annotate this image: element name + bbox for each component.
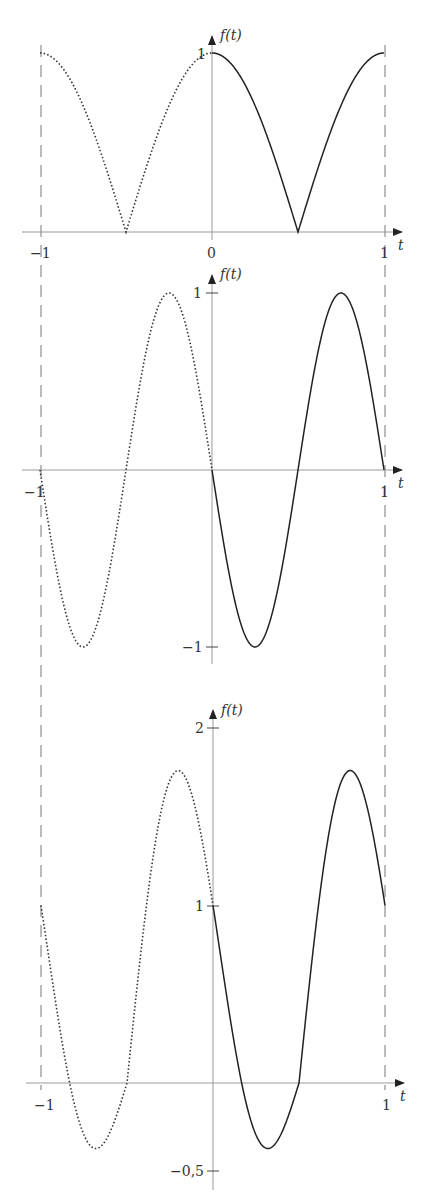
panel-abs-cos: 1 −1 0 1 f(t) t — [22, 27, 404, 261]
x-tick-1: 1 — [380, 245, 389, 261]
x-tick-neg1: −1 — [24, 484, 45, 500]
x-axis-label: t — [400, 1088, 406, 1104]
y-tick-1: 1 — [195, 898, 204, 914]
y-tick-2: 2 — [195, 720, 204, 736]
x-axis-label: t — [398, 475, 404, 491]
y-axis-label: f(t) — [219, 27, 242, 43]
figure: 1 −1 0 1 f(t) t 1 −1 −1 1 f(t) t 2 1 −0,… — [0, 0, 428, 1201]
y-axis-label: f(t) — [220, 702, 243, 718]
y-tick-1: 1 — [197, 46, 206, 62]
x-tick-1: 1 — [380, 484, 389, 500]
dotted-curve — [40, 53, 212, 232]
y-tick-neg05: −0,5 — [170, 1163, 204, 1179]
y-tick-neg1: −1 — [182, 639, 203, 655]
x-tick-0: 0 — [207, 245, 216, 261]
x-tick-neg1: −1 — [30, 245, 51, 261]
y-axis-label: f(t) — [219, 266, 242, 282]
dotted-curve — [41, 771, 213, 1149]
x-tick-1: 1 — [382, 1097, 391, 1113]
x-tick-neg1: −1 — [34, 1097, 55, 1113]
y-tick-1: 1 — [193, 285, 202, 301]
solid-curve — [213, 771, 385, 1149]
x-axis-label: t — [398, 237, 404, 253]
solid-curve — [212, 53, 384, 232]
panel-neg-sin: 1 −1 −1 1 f(t) t — [22, 266, 404, 664]
panel-sum: 2 1 −0,5 −1 1 f(t) t — [26, 702, 406, 1190]
